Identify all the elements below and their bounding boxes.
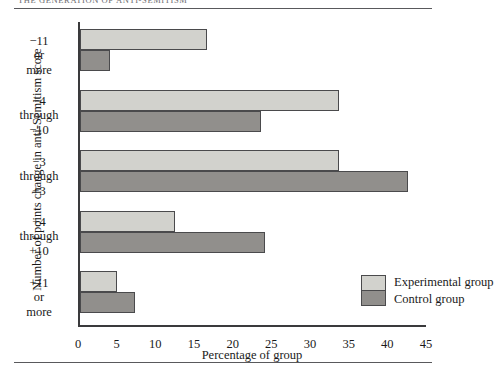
category-label-1-line-1: through <box>6 108 72 122</box>
legend-swatch-experimental <box>362 276 385 291</box>
plot-area: Experimental group Control group 0510152… <box>78 22 426 325</box>
category-label-4-line-1: or <box>6 290 72 304</box>
running-head: THE GENERATION OF ANTI-SEMITISM <box>18 0 430 5</box>
category-label-0-line-0: −11 <box>6 34 72 48</box>
x-axis-line <box>78 325 426 327</box>
page-rule-top <box>14 8 432 9</box>
category-label-0: −11 or more <box>6 34 72 77</box>
category-label-2-line-2: +3 <box>6 184 72 198</box>
category-label-2: −3 through +3 <box>6 155 72 198</box>
bar-control-0 <box>80 50 110 71</box>
legend-labels: Experimental group Control group <box>394 274 494 307</box>
category-label-3: +4 through +10 <box>6 215 72 258</box>
category-label-3-line-0: +4 <box>6 215 72 229</box>
page-rule-bottom <box>14 362 432 363</box>
bar-experimental-3 <box>80 211 176 232</box>
legend-label-control: Control group <box>394 291 494 308</box>
legend-label-experimental: Experimental group <box>394 274 494 291</box>
category-label-4: +11 or more <box>6 276 72 319</box>
category-label-1-line-0: −4 <box>6 94 72 108</box>
x-axis-title: Percentage of group <box>78 348 426 363</box>
figure-bar-chart: Number of points change in anti-Semitism… <box>0 14 440 359</box>
bar-experimental-4 <box>80 271 117 292</box>
category-label-1: −4 through −10 <box>6 94 72 137</box>
bar-experimental-2 <box>80 150 339 171</box>
category-label-3-line-2: +10 <box>6 244 72 258</box>
bar-control-2 <box>80 171 409 192</box>
category-label-4-line-2: more <box>6 305 72 319</box>
category-label-0-line-1: or <box>6 48 72 62</box>
category-label-1-line-2: −10 <box>6 123 72 137</box>
bar-control-1 <box>80 111 262 132</box>
bar-experimental-1 <box>80 90 339 111</box>
legend-swatch-control <box>362 291 385 306</box>
category-label-4-line-0: +11 <box>6 276 72 290</box>
bar-experimental-0 <box>80 29 208 50</box>
category-label-2-line-1: through <box>6 169 72 183</box>
bar-control-4 <box>80 292 136 313</box>
category-label-3-line-1: through <box>6 229 72 243</box>
legend-swatch-stack <box>361 275 386 306</box>
category-label-0-line-2: more <box>6 63 72 77</box>
category-label-2-line-0: −3 <box>6 155 72 169</box>
bar-control-3 <box>80 232 266 253</box>
